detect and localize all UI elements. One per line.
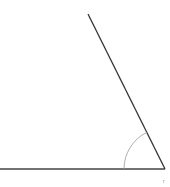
angle-diagram xyxy=(0,0,170,187)
corner-label: r xyxy=(163,178,165,184)
angle-arc xyxy=(124,132,147,169)
slant-ray xyxy=(88,14,165,169)
